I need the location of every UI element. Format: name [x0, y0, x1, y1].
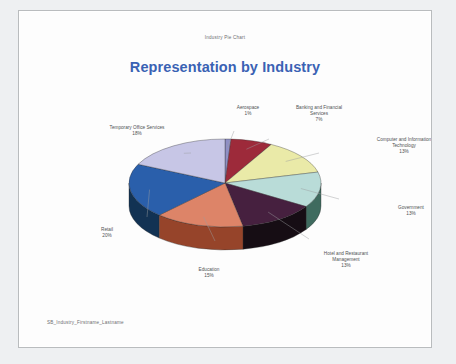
pie-slice-label: Banking and FinancialServices7%	[296, 105, 342, 122]
pie-slice-label: Computer and InformationTechnology13%	[377, 137, 431, 154]
document-page: Industry Pie Chart Representation by Ind…	[18, 10, 432, 348]
pie-slice-label: Aerospace1%	[237, 105, 260, 116]
pie-slice-label: Temporary Office Services18%	[110, 125, 166, 136]
pie-slice-label: Hotel and RestaurantManagement13%	[324, 251, 369, 268]
document-header-caption: Industry Pie Chart	[19, 35, 431, 40]
pie-slice-label: Education15%	[199, 267, 220, 278]
document-footer-caption: SB_Industry_Firstname_Lastname	[47, 320, 124, 325]
pie-chart: Aerospace1%Banking and FinancialServices…	[19, 91, 431, 306]
pie-slice-label: Government13%	[398, 205, 424, 216]
chart-title: Representation by Industry	[19, 59, 431, 75]
pie-chart-svg: Aerospace1%Banking and FinancialServices…	[19, 91, 431, 306]
pie-slice-label: Retail20%	[101, 227, 113, 238]
